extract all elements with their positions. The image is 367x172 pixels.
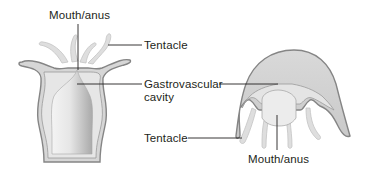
polyp-tentacles (39, 34, 111, 64)
label-gastrovascular: Gastrovascular (144, 78, 223, 91)
label-medusa-mouth-anus: Mouth/anus (248, 153, 309, 166)
label-cavity: cavity (144, 91, 174, 104)
medusa-manubrium (262, 90, 296, 126)
medusa-illustration (236, 50, 350, 148)
label-polyp-mouth-anus: Mouth/anus (49, 9, 110, 22)
label-tentacle-top: Tentacle (144, 39, 188, 52)
polyp-illustration (19, 34, 131, 162)
label-tentacle-bottom: Tentacle (144, 132, 188, 145)
